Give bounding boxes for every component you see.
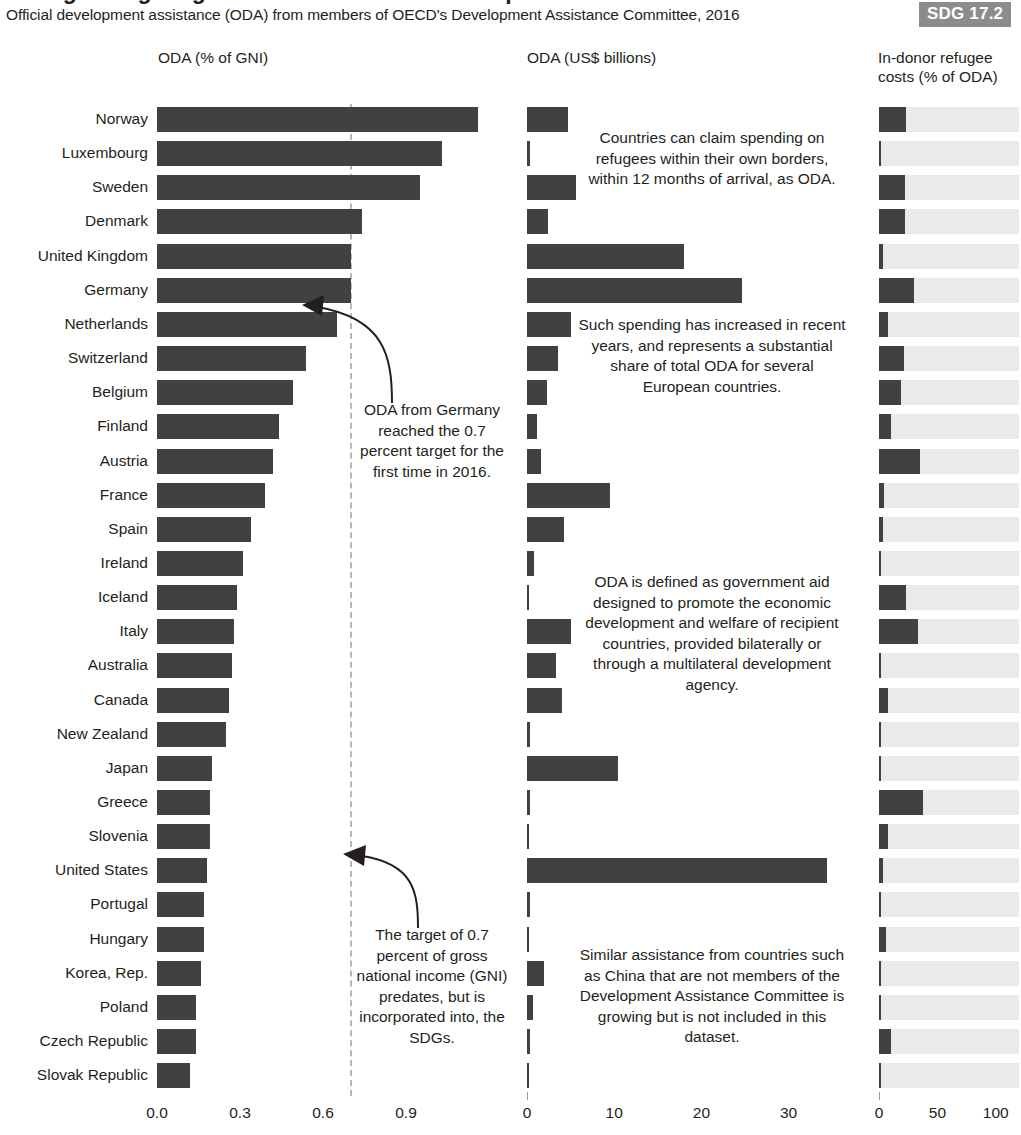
bar-oda-pct-gni (157, 1063, 190, 1088)
bar-track-refugee-costs (879, 1063, 1019, 1088)
bar-oda-usd (527, 927, 529, 952)
bar-oda-pct-gni (157, 858, 207, 883)
category-label: Spain (0, 520, 148, 538)
bar-refugee-costs (879, 619, 918, 644)
bar-refugee-costs (879, 312, 888, 337)
category-label: France (0, 486, 148, 504)
bar-track-refugee-costs (879, 483, 1019, 508)
bar-refugee-costs (879, 209, 905, 234)
annotation-germany: ODA from Germany reached the 0.7 percent… (352, 400, 512, 482)
category-label: Germany (0, 281, 148, 299)
chart-row: United States (0, 858, 1021, 883)
bar-refugee-costs (879, 653, 881, 678)
axis-tick-label: 0.6 (293, 1104, 353, 1122)
chart-row: Greece (0, 790, 1021, 815)
bar-oda-usd (527, 585, 529, 610)
axis-tick-label: 0 (849, 1104, 909, 1122)
bar-refugee-costs (879, 1063, 881, 1088)
bar-refugee-costs (879, 141, 881, 166)
bar-track-refugee-costs (879, 244, 1019, 269)
bar-oda-usd (527, 551, 534, 576)
chart-row: Canada (0, 688, 1021, 713)
bar-oda-pct-gni (157, 722, 226, 747)
category-label: Norway (0, 110, 148, 128)
category-label: Switzerland (0, 349, 148, 367)
annotation-target: The target of 0.7 percent of gross natio… (352, 925, 512, 1048)
chart-row: France (0, 483, 1021, 508)
chart-row: Japan (0, 756, 1021, 781)
bar-oda-usd (527, 961, 544, 986)
bar-track-refugee-costs (879, 1029, 1019, 1054)
bar-oda-usd (527, 858, 827, 883)
annotation-arrow-target (340, 840, 450, 935)
category-label: Netherlands (0, 315, 148, 333)
bar-oda-usd (527, 449, 541, 474)
bar-oda-usd (527, 756, 618, 781)
chart-row: New Zealand (0, 722, 1021, 747)
bar-oda-usd (527, 619, 571, 644)
bar-track-refugee-costs (879, 312, 1019, 337)
category-label: Slovak Republic (0, 1066, 148, 1084)
note-oda-definition: ODA is defined as government aid designe… (578, 572, 846, 695)
bar-oda-usd (527, 107, 568, 132)
chart-row: Australia (0, 653, 1021, 678)
category-label: New Zealand (0, 725, 148, 743)
bar-refugee-costs (879, 244, 883, 269)
category-label: United States (0, 861, 148, 879)
bar-oda-pct-gni (157, 107, 478, 132)
bar-refugee-costs (879, 175, 905, 200)
bar-track-refugee-costs (879, 858, 1019, 883)
axis-tick-label: 0 (497, 1104, 557, 1122)
bar-track-refugee-costs (879, 551, 1019, 576)
category-label: Poland (0, 998, 148, 1016)
bar-oda-pct-gni (157, 449, 273, 474)
chart-row: Netherlands (0, 312, 1021, 337)
chart-row: Switzerland (0, 346, 1021, 371)
bar-oda-pct-gni (157, 619, 234, 644)
bar-oda-pct-gni (157, 551, 243, 576)
bar-refugee-costs (879, 483, 884, 508)
category-label: Italy (0, 622, 148, 640)
bar-refugee-costs (879, 380, 901, 405)
chart-row: Iceland (0, 585, 1021, 610)
bar-oda-usd (527, 1063, 529, 1088)
bar-refugee-costs (879, 107, 906, 132)
category-label: Greece (0, 793, 148, 811)
category-label: Czech Republic (0, 1032, 148, 1050)
bar-oda-pct-gni (157, 209, 362, 234)
bar-oda-pct-gni (157, 756, 212, 781)
chart-row: Ireland (0, 551, 1021, 576)
bar-refugee-costs (879, 688, 888, 713)
bar-track-refugee-costs (879, 995, 1019, 1020)
bar-oda-usd (527, 892, 530, 917)
category-label: Finland (0, 417, 148, 435)
bar-track-refugee-costs (879, 653, 1019, 678)
bar-oda-pct-gni (157, 483, 265, 508)
chart-row: Denmark (0, 209, 1021, 234)
category-label: Japan (0, 759, 148, 777)
bar-oda-usd (527, 824, 529, 849)
bar-refugee-costs (879, 346, 904, 371)
bar-oda-pct-gni (157, 927, 204, 952)
bar-oda-usd (527, 1029, 530, 1054)
bar-track-refugee-costs (879, 414, 1019, 439)
bar-oda-pct-gni (157, 414, 279, 439)
chart-row: Slovenia (0, 824, 1021, 849)
axis-tick-label: 20 (671, 1104, 731, 1122)
bar-refugee-costs (879, 449, 920, 474)
bar-oda-pct-gni (157, 141, 442, 166)
bar-oda-usd (527, 517, 564, 542)
category-label: Canada (0, 691, 148, 709)
bar-oda-usd (527, 653, 556, 678)
bar-oda-usd (527, 790, 530, 815)
axis-tick-label: 0.9 (376, 1104, 436, 1122)
category-label: Austria (0, 452, 148, 470)
bar-track-refugee-costs (879, 722, 1019, 747)
category-label: Ireland (0, 554, 148, 572)
bar-refugee-costs (879, 278, 914, 303)
chart-row: Germany (0, 278, 1021, 303)
bar-refugee-costs (879, 1029, 891, 1054)
bar-track-refugee-costs (879, 927, 1019, 952)
bar-oda-pct-gni (157, 790, 210, 815)
bar-oda-pct-gni (157, 824, 210, 849)
